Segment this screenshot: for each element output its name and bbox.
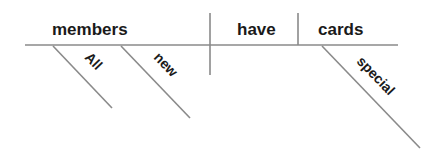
subject-word: members	[52, 20, 128, 39]
modifier-word-new: new	[151, 49, 181, 80]
sentence-diagram: members have cards All new special	[0, 0, 432, 156]
modifier-word-special: special	[354, 53, 398, 98]
modifier-slant-all	[53, 46, 112, 108]
object-word: cards	[318, 20, 363, 39]
modifier-word-all: All	[82, 49, 106, 73]
verb-word: have	[237, 20, 276, 39]
